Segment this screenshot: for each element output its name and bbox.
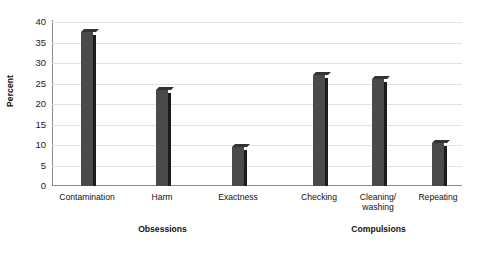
group-label: Compulsions [351, 224, 405, 234]
bar [313, 75, 325, 186]
bar-top-face [372, 76, 390, 79]
bar-top-face [432, 140, 450, 143]
bar-top-face [232, 144, 250, 147]
x-axis-category-label: Checking [301, 192, 337, 202]
y-axis-tick-label: 25 [35, 79, 46, 89]
bar-top-face [313, 72, 331, 75]
bar-top-face [156, 87, 174, 90]
gridline [52, 84, 462, 85]
bar-chart: Percent 0510152025303540 ContaminationHa… [0, 0, 479, 256]
bar-shadow [444, 146, 447, 186]
y-axis-title: Percent [5, 63, 15, 119]
bar-shadow [168, 93, 171, 186]
x-axis-category-label: Cleaning/ washing [360, 192, 396, 212]
x-axis-category-label: Contamination [59, 192, 114, 202]
x-axis-line [52, 185, 462, 187]
bar-top-face [81, 29, 99, 32]
plot-area: 0510152025303540 [52, 22, 462, 186]
gridline [52, 166, 462, 167]
x-axis-category-label: Repeating [418, 192, 457, 202]
group-label: Obsessions [138, 224, 187, 234]
plot-frame: 0510152025303540 [52, 22, 462, 186]
bar [432, 143, 444, 186]
bar-shadow [325, 78, 328, 186]
y-axis-tick-label: 0 [41, 181, 46, 191]
bar-shadow [244, 150, 247, 186]
y-axis-tick-label: 20 [35, 99, 46, 109]
x-axis-category-label: Exactness [218, 192, 258, 202]
gridline [52, 43, 462, 44]
gridline [52, 22, 462, 23]
bar-shadow [384, 82, 387, 186]
y-axis-tick-label: 35 [35, 38, 46, 48]
y-axis-tick-label: 15 [35, 120, 46, 130]
gridline [52, 145, 462, 146]
y-axis-tick-label: 30 [35, 58, 46, 68]
bar [372, 79, 384, 186]
x-axis-category-label: Harm [151, 192, 172, 202]
bar [81, 32, 93, 186]
y-axis-tick-label: 40 [35, 17, 46, 27]
y-axis-tick-label: 5 [41, 161, 46, 171]
gridline [52, 125, 462, 126]
bar-shadow [93, 35, 96, 186]
bar [232, 147, 244, 186]
y-axis-line [52, 20, 53, 186]
bar [156, 90, 168, 186]
y-axis-tick-label: 10 [35, 140, 46, 150]
gridline [52, 63, 462, 64]
gridline [52, 104, 462, 105]
